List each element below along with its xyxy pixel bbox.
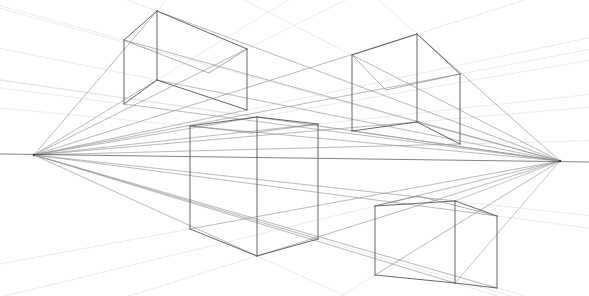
perspective-drawing-canvas — [0, 0, 589, 296]
guide-ray-right-2 — [0, 0, 560, 161]
vanishing-point-left-marker — [33, 154, 36, 157]
guide-ray-left-7 — [34, 155, 589, 296]
construction-right-1-3 — [417, 122, 560, 161]
construction-right-2-0 — [190, 126, 560, 161]
construction-right-0-0 — [124, 40, 560, 161]
construction-left-2-3 — [34, 155, 257, 256]
construction-left-0-1 — [34, 110, 247, 155]
box-0-top-back-right-edge — [209, 49, 247, 73]
box-3-top-back-right-edge — [418, 196, 497, 216]
guide-ray-left-1 — [34, 0, 589, 155]
box-1-top-right-edge — [417, 34, 460, 74]
guide-ray-left-15 — [34, 155, 589, 296]
construction-left-0-2 — [34, 11, 157, 155]
box-0-bottom-right-edge — [157, 80, 247, 110]
construction-left-2-1 — [34, 155, 318, 239]
construction-left-0-0 — [34, 49, 247, 155]
box-1-top-back-right-edge — [386, 74, 460, 90]
guide-ray-left-8 — [34, 0, 589, 155]
construction-right-1-2 — [417, 34, 560, 161]
construction-left-3-3 — [34, 155, 455, 283]
box-1-top-back-left-edge — [352, 55, 386, 90]
box-2-bottom-left-edge — [190, 229, 257, 256]
box-0-top-back-left-edge — [124, 40, 209, 73]
perspective-drawing — [0, 0, 589, 296]
construction-left-3-2 — [34, 155, 455, 201]
box-1-bottom-right-edge — [417, 122, 460, 144]
box-2-top-right-edge — [257, 117, 318, 124]
construction-left-3-1 — [34, 155, 497, 288]
guide-ray-right-10 — [0, 0, 560, 161]
construction-right-0-3 — [157, 80, 560, 161]
box-2-top-back-left-edge — [190, 126, 252, 133]
guide-ray-left-5 — [34, 155, 589, 296]
box-0-top-left-edge — [124, 11, 157, 40]
guide-ray-left-2 — [34, 0, 589, 155]
construction-right-3-2 — [455, 161, 560, 201]
construction-left-2-2 — [34, 117, 257, 155]
box-3-bottom-right-edge — [455, 283, 497, 288]
construction-right-0-1 — [124, 104, 560, 161]
construction-left-2-0 — [34, 124, 318, 155]
guide-ray-left-0 — [34, 0, 589, 155]
guide-ray-right-8 — [0, 0, 560, 161]
box-0-top-right-edge — [157, 11, 247, 49]
box-1-top-left-edge — [352, 34, 417, 55]
guide-ray-left-13 — [34, 155, 589, 296]
construction-right-0-2 — [157, 11, 560, 161]
construction-right-3-0 — [375, 161, 560, 206]
box-2-top-left-edge — [190, 117, 257, 126]
guide-lines-strong — [34, 11, 560, 288]
box-2-bottom-right-edge — [257, 239, 318, 256]
vanishing-point-right-marker — [559, 160, 562, 163]
